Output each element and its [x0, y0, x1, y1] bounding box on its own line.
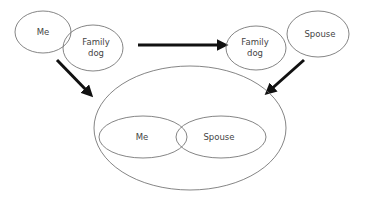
outer-ellipse	[94, 66, 286, 190]
family-dog-label-line1: Family	[241, 37, 268, 47]
me-label: Me	[136, 132, 149, 142]
spouse-label: Spouse	[203, 132, 234, 142]
top-right-group: Family dog Spouse	[226, 11, 349, 70]
bottom-group: Me Spouse	[94, 66, 286, 190]
spouse-label: Spouse	[304, 29, 335, 39]
family-dog-label-line1: Family	[82, 37, 109, 47]
me-label: Me	[37, 27, 50, 37]
down-left-arrow	[268, 60, 304, 92]
family-dog-label-line2: dog	[88, 48, 104, 58]
top-left-group: Me Family dog	[15, 11, 123, 71]
family-dog-label-line2: dog	[247, 48, 263, 58]
relationship-diagram: Me Family dog Family dog Spouse Me Spous…	[0, 0, 366, 198]
